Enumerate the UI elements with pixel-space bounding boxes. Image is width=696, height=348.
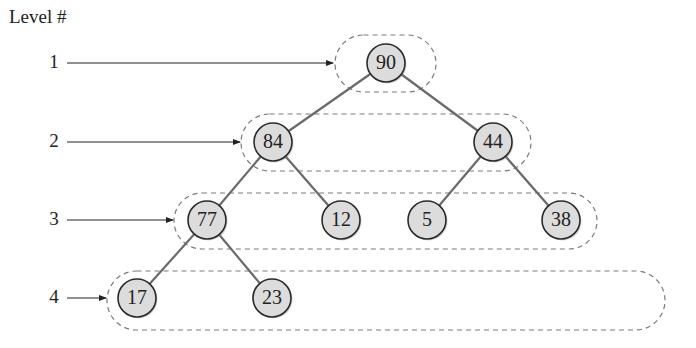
node-value: 44 — [474, 122, 512, 160]
level-number: 2 — [44, 130, 64, 152]
node-value: 84 — [254, 122, 292, 160]
node-value: 17 — [118, 278, 156, 316]
level-3-group — [174, 193, 597, 249]
node-value: 77 — [188, 200, 226, 238]
level-number: 3 — [44, 208, 64, 230]
level-number: 4 — [44, 286, 64, 308]
node-value: 12 — [322, 200, 360, 238]
binary-tree-diagram — [0, 0, 696, 348]
node-value: 5 — [408, 200, 446, 238]
tree-nodes — [118, 44, 582, 319]
tree-edges — [137, 63, 561, 298]
level-4-group — [107, 271, 665, 330]
node-value: 90 — [367, 43, 405, 81]
level-arrows — [67, 63, 333, 298]
node-value: 23 — [253, 278, 291, 316]
level-number: 1 — [44, 51, 64, 73]
node-value: 38 — [542, 200, 580, 238]
